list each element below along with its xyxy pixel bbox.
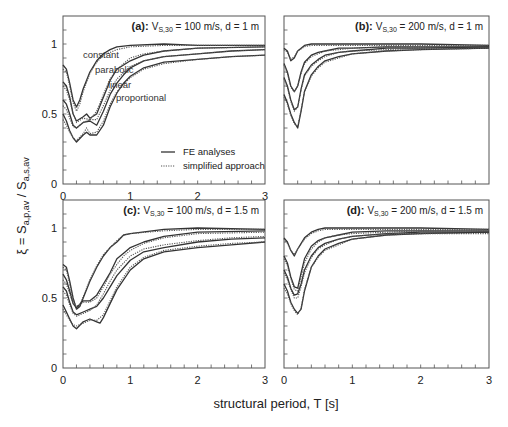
panel-a: 00.510123(a): VS,30 = 100 m/s, d = 1 m xyxy=(42,16,268,202)
series-constant-simplified xyxy=(63,229,265,307)
y-axis-label: ξ = Sa,p,av / Sa,s,av xyxy=(14,157,31,255)
panel-title: (a): VS,30 = 100 m/s, d = 1 m xyxy=(132,20,259,33)
panel-d: 0123(d): VS,30 = 200 m/s, d = 1.5 m xyxy=(281,200,492,386)
x-tick-label: 3 xyxy=(262,374,268,386)
series-parabolic-fe xyxy=(63,231,265,308)
panel-c: 00.510123(c): VS,30 = 100 m/s, d = 1.5 m xyxy=(42,200,268,386)
series-proportional-fe xyxy=(284,232,489,313)
series-linear-fe xyxy=(284,232,489,295)
panel-title: (d): VS,30 = 200 m/s, d = 1.5 m xyxy=(347,204,483,217)
panel-title: (c): VS,30 = 100 m/s, d = 1.5 m xyxy=(123,204,259,217)
plot-frame xyxy=(284,16,489,184)
series-proportional-simplified xyxy=(63,242,265,326)
figure: ξ = Sa,p,av / Sa,s,av structural period,… xyxy=(0,0,508,427)
y-tick-label: 1 xyxy=(51,222,57,234)
series-constant-fe xyxy=(63,228,265,309)
plot-frame xyxy=(284,200,489,368)
x-tick-label: 0 xyxy=(60,374,66,386)
y-tick-label: 0.5 xyxy=(42,292,57,304)
y-tick-label: 0 xyxy=(51,362,57,374)
x-tick-label: 2 xyxy=(418,374,424,386)
series-linear-simplified xyxy=(63,236,265,316)
x-tick-label: 3 xyxy=(486,374,492,386)
curve-annotations: constant parabolic linear proportional xyxy=(83,49,166,103)
x-axis-label: structural period, T [s] xyxy=(213,396,338,411)
series-proportional-simplified xyxy=(284,234,489,315)
y-tick-label: 0.5 xyxy=(42,108,57,120)
legend: FE analyses simplified approach xyxy=(161,146,265,171)
x-tick-label: 1 xyxy=(349,374,355,386)
series-parabolic-fe xyxy=(284,47,489,92)
series-linear-simplified xyxy=(284,48,489,111)
annotation-constant: constant xyxy=(83,49,119,60)
series-linear-fe xyxy=(63,238,265,315)
panel-b: (b): VS,30 = 200 m/s, d = 1 m xyxy=(284,16,489,184)
legend-simplified-label: simplified approach xyxy=(183,160,265,171)
series-linear-simplified xyxy=(284,232,489,298)
panel-title: (b): VS,30 = 200 m/s, d = 1 m xyxy=(355,20,483,33)
plot-frame xyxy=(63,200,265,368)
y-tick-label: 0 xyxy=(51,178,57,190)
series-parabolic-fe xyxy=(284,231,489,288)
x-tick-label: 1 xyxy=(127,374,133,386)
series-proportional-fe xyxy=(63,242,265,329)
series-linear-fe xyxy=(284,47,489,110)
series-proportional-fe xyxy=(284,48,489,128)
x-tick-label: 0 xyxy=(281,374,287,386)
annotation-proportional: proportional xyxy=(116,92,166,103)
x-tick-label: 2 xyxy=(195,374,201,386)
annotation-parabolic: parabolic xyxy=(95,64,134,75)
series-proportional-simplified xyxy=(284,48,489,126)
annotation-linear: linear xyxy=(108,79,131,90)
legend-fe-label: FE analyses xyxy=(183,146,236,157)
y-tick-label: 1 xyxy=(51,38,57,50)
